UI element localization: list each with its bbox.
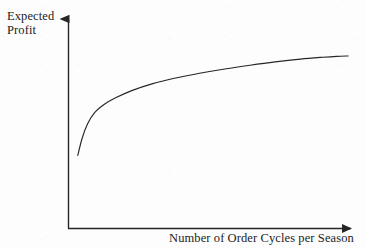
expected-profit-curve — [78, 56, 348, 156]
y-axis-label-line-2: Profit — [7, 23, 54, 37]
chart-figure: Expected Profit Number of Order Cycles p… — [0, 0, 366, 248]
y-axis-label: Expected Profit — [7, 9, 54, 37]
chart-plot-area — [0, 0, 366, 248]
x-axis-label: Number of Order Cycles per Season — [169, 231, 354, 245]
y-axis-label-line-1: Expected — [7, 9, 54, 23]
